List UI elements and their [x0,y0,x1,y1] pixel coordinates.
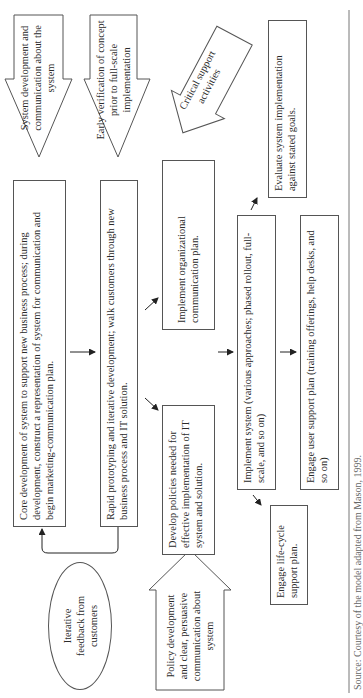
feedback-loop-arrow [42,527,118,553]
box-evaluate: Evaluate system implementation against s… [268,20,307,198]
box-core-development-text: Core development of system to support ne… [18,212,55,520]
arrow-rapid-to-org-comm [145,298,158,310]
box-rapid-prototyping-text: Rapid prototyping and iterative developm… [105,208,129,520]
box-engage-user-support-text: Engage user support plan (training offer… [305,230,329,483]
box-rapid-prototyping: Rapid prototyping and iterative developm… [100,180,138,527]
box-engage-lifecycle-text: Engage life-cycle support plan. [275,525,299,598]
ellipse-feedback-text: Iterative feedback from customers [61,591,100,661]
ellipse-feedback: Iterative feedback from customers [48,562,112,690]
box-engage-user-support: Engage user support plan (training offer… [300,215,339,490]
block-arrow-early-verif-label: Early verification of concept prior to f… [94,17,133,143]
block-arrow-policy-label: Policy development and clear, persuasive… [164,586,216,686]
box-develop-policies: Develop policies needed for effective im… [162,405,215,555]
arrow-rapid-to-policies [145,398,158,410]
arrow-to-lifecycle [253,495,261,505]
box-evaluate-text: Evaluate system implementation against s… [273,55,297,191]
block-arrow-system-dev-label: System development and communication abo… [18,18,57,138]
box-implement-org-comm-text: Implement organizational communication p… [176,216,200,323]
box-core-development: Core development of system to support ne… [13,180,66,527]
arrow-to-evaluate [251,198,257,210]
box-implement-system-text: Implement system (various approaches; ph… [242,233,266,483]
box-implement-system: Implement system (various approaches; ph… [237,215,276,490]
box-develop-policies-text: Develop policies needed for effective im… [167,421,204,548]
figure-caption: Source: Courtesy of the model adapted fr… [352,455,363,690]
box-implement-org-comm: Implement organizational communication p… [162,160,215,330]
box-engage-lifecycle: Engage life-cycle support plan. [270,505,308,605]
